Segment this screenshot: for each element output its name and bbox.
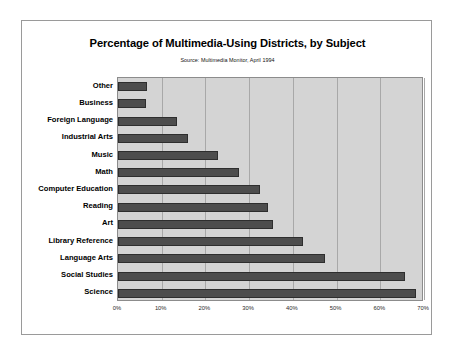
bar	[118, 117, 177, 126]
bar-row	[118, 78, 424, 95]
bar-row	[118, 216, 424, 233]
bar	[118, 99, 146, 108]
bar	[118, 82, 147, 91]
y-axis-label: Foreign Language	[22, 116, 113, 124]
bar	[118, 134, 188, 143]
x-axis-tick-label: 40%	[286, 305, 298, 311]
bar	[118, 168, 239, 177]
bar	[118, 203, 268, 212]
y-axis-label: Art	[22, 219, 113, 227]
y-axis-label: Business	[22, 99, 113, 107]
x-axis-tick-label: 30%	[242, 305, 254, 311]
bar	[118, 289, 416, 298]
bar-row	[118, 250, 424, 267]
x-axis-tick-label: 70%	[417, 305, 429, 311]
bar-row	[118, 147, 424, 164]
bar-row	[118, 112, 424, 129]
y-axis-label: Computer Education	[22, 185, 113, 193]
y-axis-label: Science	[22, 288, 113, 296]
chart-source-note: Source: Multimedia Monitor, April 1994	[22, 57, 433, 63]
bar	[118, 185, 260, 194]
y-axis-label: Library Reference	[22, 237, 113, 245]
y-axis-label: Music	[22, 151, 113, 159]
gridline	[424, 78, 425, 300]
x-axis-tick-label: 60%	[373, 305, 385, 311]
x-axis-tick-label: 0%	[113, 305, 121, 311]
bar-row	[118, 199, 424, 216]
x-axis-tick-label: 20%	[199, 305, 211, 311]
bar-row	[118, 233, 424, 250]
page-title: Percentage of Multimedia-Using Districts…	[22, 37, 433, 49]
x-axis-tick-label: 50%	[330, 305, 342, 311]
bar-row	[118, 130, 424, 147]
bar	[118, 254, 325, 263]
bar	[118, 272, 405, 281]
bar-row	[118, 268, 424, 285]
bar	[118, 237, 303, 246]
bar	[118, 151, 218, 160]
y-axis-label: Other	[22, 82, 113, 90]
bar-row	[118, 95, 424, 112]
bar-row	[118, 181, 424, 198]
plot-area	[117, 77, 423, 301]
bar-row	[118, 285, 424, 302]
y-axis-labels: OtherBusinessForeign LanguageIndustrial …	[22, 77, 113, 301]
y-axis-label: Social Studies	[22, 271, 113, 279]
bar-series	[118, 78, 422, 300]
y-axis-label: Reading	[22, 202, 113, 210]
x-axis-tick-label: 10%	[155, 305, 167, 311]
bar	[118, 220, 273, 229]
y-axis-label: Language Arts	[22, 254, 113, 262]
bar-row	[118, 164, 424, 181]
y-axis-label: Industrial Arts	[22, 133, 113, 141]
y-axis-label: Math	[22, 168, 113, 176]
chart-figure: Percentage of Multimedia-Using Districts…	[21, 20, 432, 335]
x-axis-tick-labels: 0%10%20%30%40%50%60%70%	[117, 305, 423, 319]
